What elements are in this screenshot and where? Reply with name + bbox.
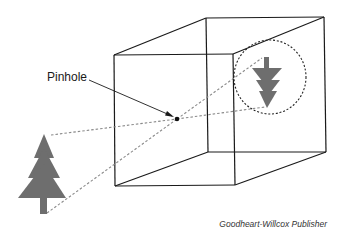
box-depth-edges [114, 17, 326, 186]
pinhole-label: Pinhole [47, 70, 87, 84]
pinhole-dot [175, 117, 180, 122]
ray-projected-top [177, 58, 262, 119]
inverted-tree-image-icon [252, 57, 282, 108]
tree-object-icon [18, 134, 66, 214]
pinhole-leader-arrow [89, 80, 174, 117]
publisher-credit: Goodheart-Willcox Publisher [219, 219, 328, 229]
box-front-face [114, 54, 235, 186]
pinhole-camera-diagram: Pinhole Goodheart-Willcox Publisher [0, 0, 344, 229]
